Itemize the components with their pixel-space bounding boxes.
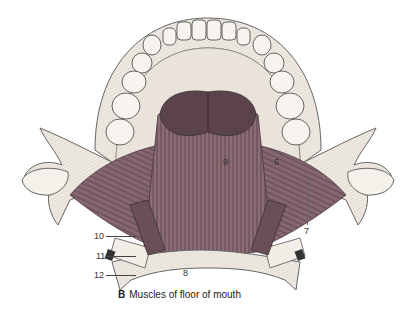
label-8: 8 (183, 268, 188, 278)
label-12: 12 (94, 270, 104, 280)
label-6: 6 (274, 157, 279, 167)
label-9: 9 (223, 157, 228, 167)
leader-11 (106, 256, 136, 257)
figure-caption: BMuscles of floor of mouth (118, 289, 241, 300)
label-10: 10 (94, 231, 104, 241)
caption-letter: B (118, 289, 125, 300)
label-11: 11 (96, 251, 105, 261)
mandible-illustration (0, 0, 416, 321)
leader-12 (106, 275, 136, 276)
label-7: 7 (304, 226, 309, 236)
leader-7 (307, 175, 308, 225)
leader-10 (106, 236, 136, 237)
caption-text: Muscles of floor of mouth (129, 289, 241, 300)
